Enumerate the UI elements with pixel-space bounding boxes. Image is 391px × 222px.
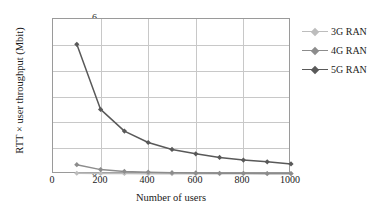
data-point-marker xyxy=(288,161,293,166)
data-point-marker xyxy=(146,140,151,145)
series-5g-ran xyxy=(74,42,293,167)
x-tick-label: 600 xyxy=(175,175,215,185)
data-point-marker xyxy=(74,162,79,167)
x-tick-label: 0 xyxy=(32,175,72,185)
x-axis-title: Number of users xyxy=(52,192,290,203)
y-axis-title: RTT × user throughput (Mbit) xyxy=(14,6,25,176)
legend-marker-icon xyxy=(302,45,328,57)
legend-item-4g-ran[interactable]: 4G RAN xyxy=(302,41,390,60)
data-point-marker xyxy=(241,157,246,162)
data-point-marker xyxy=(74,42,79,47)
series-layer xyxy=(53,19,291,174)
legend-label: 3G RAN xyxy=(328,26,367,37)
data-point-marker xyxy=(169,147,174,152)
x-tick-label: 400 xyxy=(127,175,167,185)
legend-item-3g-ran[interactable]: 3G RAN xyxy=(302,22,390,41)
legend-marker-icon xyxy=(302,26,328,38)
x-tick-label: 1000 xyxy=(270,175,310,185)
legend-marker-icon xyxy=(302,64,328,76)
data-point-marker xyxy=(217,155,222,160)
data-point-marker xyxy=(169,170,174,175)
legend-label: 5G RAN xyxy=(328,64,367,75)
legend-label: 4G RAN xyxy=(328,45,367,56)
plot-area xyxy=(52,18,290,173)
legend-item-5g-ran[interactable]: 5G RAN xyxy=(302,60,390,79)
chart-legend: 3G RAN 4G RAN 5G RAN xyxy=(302,22,390,79)
x-tick-label: 800 xyxy=(222,175,262,185)
chart-figure: RTT × user throughput (Mbit) 6 5 4 3 2 1… xyxy=(0,0,391,222)
x-tick-label: 200 xyxy=(80,175,120,185)
data-point-marker xyxy=(193,151,198,156)
data-point-marker xyxy=(265,159,270,164)
data-point-marker xyxy=(98,167,103,172)
